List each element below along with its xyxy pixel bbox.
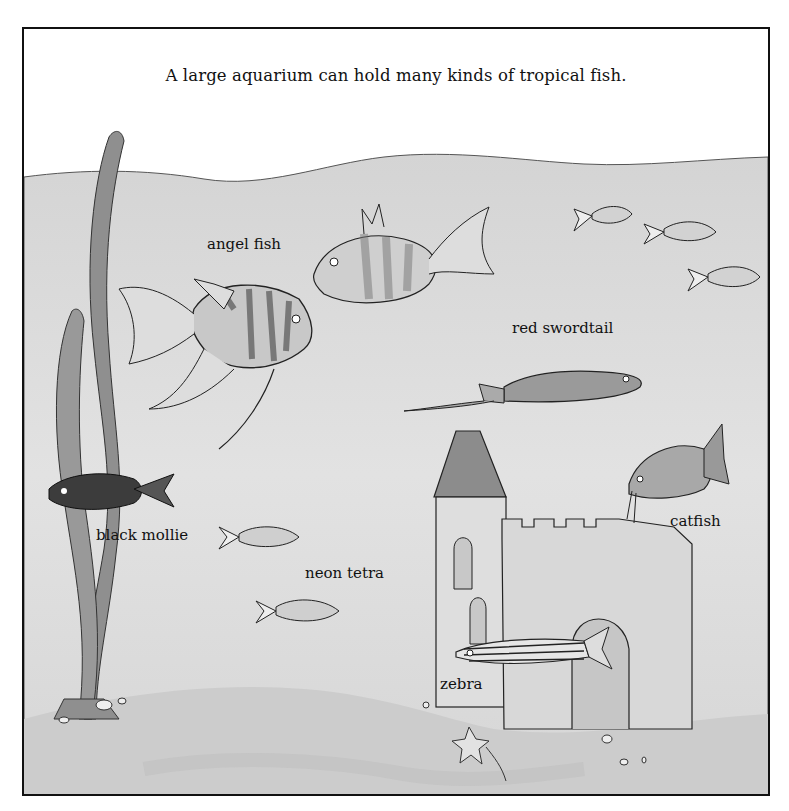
label-angel-fish: angel fish xyxy=(207,235,281,253)
label-black-mollie: black mollie xyxy=(96,526,188,544)
label-zebra: zebra xyxy=(440,675,483,693)
label-neon-tetra: neon tetra xyxy=(305,564,384,582)
label-catfish: catfish xyxy=(670,512,721,530)
illustration-frame: A large aquarium can hold many kinds of … xyxy=(22,27,770,796)
aquarium-scene xyxy=(24,29,768,794)
page-caption: A large aquarium can hold many kinds of … xyxy=(24,66,768,85)
label-red-swordtail: red swordtail xyxy=(512,319,613,337)
